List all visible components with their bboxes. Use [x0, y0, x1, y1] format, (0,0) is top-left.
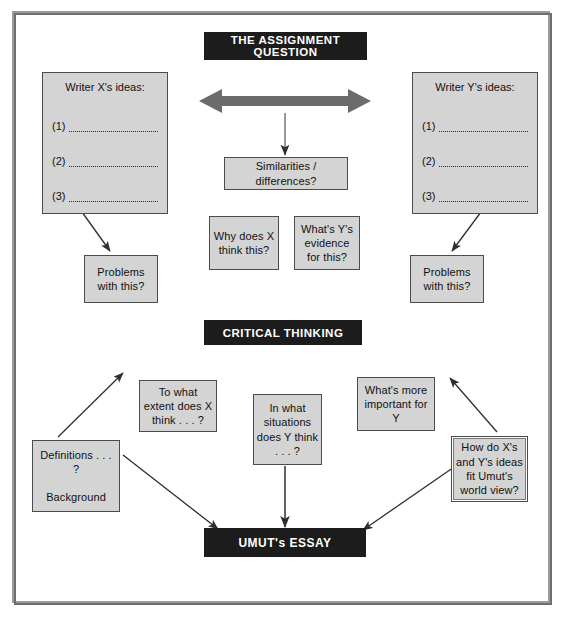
dotted-line [69, 157, 158, 167]
banner-critical-thinking-label: CRITICAL THINKING [223, 327, 344, 339]
panel-writer-y: Writer Y's ideas: (1) (2) (3) [412, 72, 538, 214]
node-definitions-background: Definitions . . . ? Background [32, 440, 120, 512]
banner-assignment-question-label: THE ASSIGNMENT QUESTION [204, 34, 367, 58]
node-in-what-situations-y-label: In what situations does Y think . . . ? [256, 401, 319, 458]
node-definitions-label: Definitions . . . ? [37, 448, 115, 477]
node-problems-with-this-left: Problems with this? [84, 255, 158, 303]
node-in-what-situations-y: In what situations does Y think . . . ? [253, 394, 322, 465]
banner-critical-thinking: CRITICAL THINKING [204, 320, 362, 345]
dotted-line [69, 192, 158, 202]
panel-writer-x-row-3-label: (3) [52, 190, 69, 202]
diagram-canvas: THE ASSIGNMENT QUESTION CRITICAL THINKIN… [0, 0, 570, 621]
node-background-label: Background [46, 490, 106, 504]
dotted-line [439, 157, 528, 167]
panel-writer-x-row-1-label: (1) [52, 120, 69, 132]
banner-umut-essay: UMUT's ESSAY [204, 528, 366, 557]
node-to-what-extent-x-label: To what extent does X think . . . ? [142, 385, 214, 428]
dotted-line [439, 192, 528, 202]
panel-writer-y-row-2-label: (2) [422, 155, 439, 167]
node-whats-y-evidence: What's Y's evidence for this? [294, 216, 360, 270]
node-how-do-ideas-fit-worldview-label: How do X's and Y's ideas fit Umut's worl… [454, 440, 525, 497]
node-problems-with-this-right-label: Problems with this? [413, 265, 481, 294]
panel-writer-y-row-1: (1) [422, 120, 528, 132]
node-similarities-differences-label: Similarities / differences? [227, 159, 345, 188]
banner-assignment-question: THE ASSIGNMENT QUESTION [204, 32, 367, 60]
node-problems-with-this-right: Problems with this? [410, 255, 484, 303]
panel-writer-x-row-3: (3) [52, 190, 158, 202]
node-similarities-differences: Similarities / differences? [224, 157, 348, 190]
banner-umut-essay-label: UMUT's ESSAY [238, 536, 331, 550]
node-to-what-extent-x: To what extent does X think . . . ? [139, 380, 217, 432]
panel-writer-x: Writer X's ideas: (1) (2) (3) [42, 72, 168, 214]
panel-writer-x-row-2: (2) [52, 155, 158, 167]
panel-writer-x-title: Writer X's ideas: [43, 81, 167, 93]
panel-writer-y-row-3-label: (3) [422, 190, 439, 202]
panel-writer-y-row-3: (3) [422, 190, 528, 202]
panel-writer-y-row-1-label: (1) [422, 120, 439, 132]
node-whats-more-important-y: What's more important for Y [357, 377, 435, 431]
panel-writer-y-row-2: (2) [422, 155, 528, 167]
node-how-do-ideas-fit-worldview: How do X's and Y's ideas fit Umut's worl… [451, 436, 528, 502]
dotted-line [69, 122, 158, 132]
node-why-does-x-think-label: Why does X think this? [212, 229, 276, 258]
node-problems-with-this-left-label: Problems with this? [87, 265, 155, 294]
panel-writer-x-row-1: (1) [52, 120, 158, 132]
node-whats-y-evidence-label: What's Y's evidence for this? [297, 222, 357, 265]
panel-writer-y-title: Writer Y's ideas: [413, 81, 537, 93]
panel-writer-x-row-2-label: (2) [52, 155, 69, 167]
node-whats-more-important-y-label: What's more important for Y [360, 383, 432, 426]
dotted-line [439, 122, 528, 132]
node-why-does-x-think: Why does X think this? [209, 216, 279, 270]
